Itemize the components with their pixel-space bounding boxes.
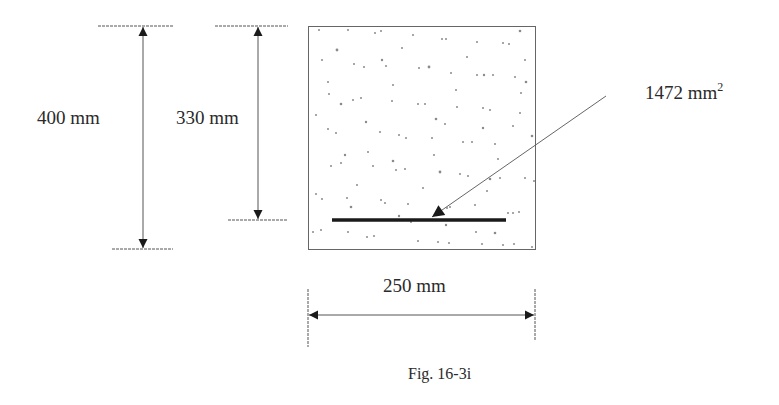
width-label: 250 mm	[383, 276, 446, 295]
steel-area-label: 1472 mm2	[645, 82, 723, 102]
total-depth-label: 400 mm	[37, 108, 100, 127]
figure-caption: Fig. 16-3i	[408, 366, 471, 382]
concrete-section	[309, 27, 536, 250]
steel-area-value: 1472 mm	[645, 82, 717, 103]
width-dimension	[308, 289, 535, 347]
total-depth-dimension	[98, 26, 173, 249]
beam-section-diagram	[0, 0, 779, 405]
effective-depth-label: 330 mm	[176, 108, 239, 127]
steel-area-exponent: 2	[717, 80, 723, 94]
section-outline	[309, 27, 536, 250]
